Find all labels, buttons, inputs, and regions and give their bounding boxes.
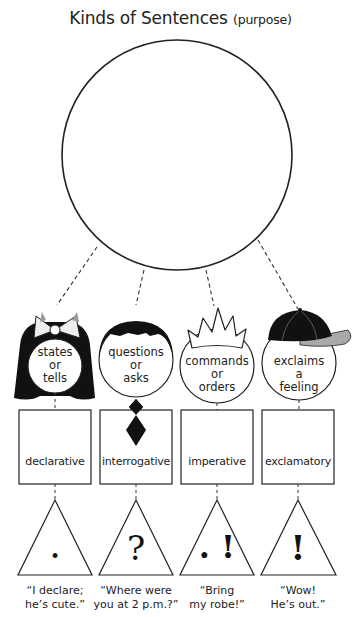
- example-interrogative: “Where were you at 2 p.m.?”: [91, 584, 181, 612]
- example-line: you at 2 p.m.?”: [91, 598, 181, 612]
- box-exclamatory[interactable]: [262, 410, 334, 484]
- purpose-line: feeling: [269, 381, 329, 394]
- purpose-imperative: commands or orders: [185, 355, 249, 394]
- example-imperative: “Bring my robe!”: [172, 584, 262, 612]
- exclamation-mark-icon: !: [278, 528, 318, 568]
- period-or-exclamation-icon: . !: [192, 528, 242, 566]
- example-line: “Bring: [172, 584, 262, 598]
- purpose-exclamatory: exclaims a feeling: [269, 355, 329, 394]
- diagram-canvas: [0, 0, 361, 617]
- purpose-declarative: states or tells: [25, 346, 85, 385]
- period-icon: .: [35, 534, 75, 564]
- example-line: “Wow!: [253, 584, 343, 598]
- example-line: my robe!”: [172, 598, 262, 612]
- box-to-triangle-stubs: [55, 484, 298, 500]
- kind-name-imperative: imperative: [181, 455, 253, 468]
- kind-name-exclamatory: exclamatory: [262, 455, 334, 468]
- central-circle[interactable]: [62, 40, 292, 270]
- kind-name-declarative: declarative: [19, 455, 91, 468]
- purpose-interrogative: questions or asks: [106, 346, 166, 385]
- example-declarative: “I declare; he’s cute.”: [10, 584, 100, 612]
- purpose-line: orders: [185, 381, 249, 394]
- kind-name-interrogative: interrogative: [100, 455, 172, 468]
- example-line: He’s out.”: [253, 598, 343, 612]
- example-exclamatory: “Wow! He’s out.”: [253, 584, 343, 612]
- box-declarative[interactable]: [19, 410, 91, 484]
- purpose-line: tells: [25, 372, 85, 385]
- example-line: he’s cute.”: [10, 598, 100, 612]
- purpose-line: asks: [106, 372, 166, 385]
- box-imperative[interactable]: [181, 410, 253, 484]
- example-line: “Where were: [91, 584, 181, 598]
- question-mark-icon: ?: [116, 528, 156, 568]
- example-line: “I declare;: [10, 584, 100, 598]
